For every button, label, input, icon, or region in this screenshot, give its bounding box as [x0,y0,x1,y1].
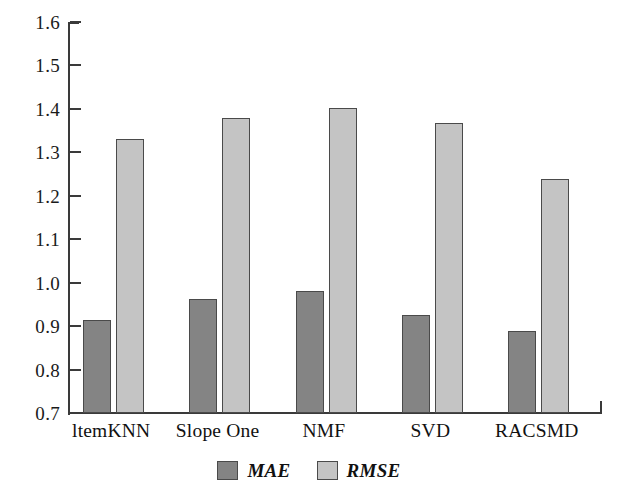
bar-mae-nmf [296,291,324,413]
bar-rmse-slope-one [222,118,250,413]
x-axis-right-cap [600,401,602,414]
legend-item-mae: MAE [217,461,290,480]
y-axis-tick-label: 0.9 [0,317,60,336]
bar-rmse-ltemknn [116,139,144,413]
y-axis-tick-label: 1.4 [0,100,60,119]
bar-mae-svd [402,315,430,413]
x-axis-label-svd: SVD [377,421,483,441]
bar-rmse-svd [435,123,463,413]
y-axis-tick-label: 1.3 [0,143,60,162]
x-axis-label-nmf: NMF [271,421,377,441]
bar-chart: 1.61.51.41.31.21.11.00.90.80.7 ltemKNNSl… [0,0,618,497]
legend-swatch-mae [217,461,238,480]
legend-item-rmse: RMSE [317,461,401,480]
bar-mae-slope-one [189,299,217,413]
y-axis-tick-label: 1.5 [0,56,60,75]
bar-rmse-nmf [329,108,357,413]
bar-mae-racsmd [508,331,536,413]
y-axis-tick-label: 1.1 [0,230,60,249]
legend-label-mae: MAE [247,461,290,480]
x-axis-label-racsmd: RACSMD [484,421,590,441]
plot-area [68,22,600,413]
legend: MAE RMSE [0,461,618,480]
x-axis-label-slope-one: Slope One [164,421,270,441]
y-axis-tick-label: 1.0 [0,274,60,293]
y-axis-tick-label: 1.6 [0,13,60,32]
legend-label-rmse: RMSE [347,461,401,480]
y-axis-tick-label: 1.2 [0,187,60,206]
x-axis-label-ltemknn: ltemKNN [58,421,164,441]
legend-swatch-rmse [317,461,338,480]
bar-rmse-racsmd [541,179,569,413]
y-axis-tick-label: 0.8 [0,361,60,380]
bar-mae-ltemknn [83,320,111,413]
y-axis-tick-label: 0.7 [0,404,60,423]
